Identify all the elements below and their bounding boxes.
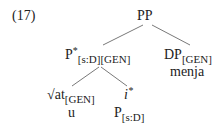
word-menja: menja bbox=[170, 65, 204, 79]
node-pp: PP bbox=[137, 9, 153, 23]
trace-category: P[s:D] bbox=[114, 106, 144, 120]
node-p-star: P*[s:D][GEN] bbox=[65, 48, 130, 62]
edge-p-trace bbox=[101, 67, 127, 86]
node-dp: DP[GEN] bbox=[164, 48, 212, 62]
example-number: (17) bbox=[12, 9, 35, 23]
edge-p-root bbox=[72, 67, 99, 86]
edge-pp-p bbox=[103, 25, 143, 45]
word-u: u bbox=[68, 106, 75, 120]
node-trace: i* bbox=[124, 88, 133, 102]
edge-pp-dp bbox=[152, 25, 190, 45]
node-root-at: √at[GEN] bbox=[47, 88, 95, 102]
